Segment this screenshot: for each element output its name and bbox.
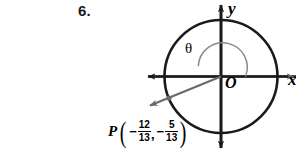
x-denominator: 13 (138, 133, 151, 143)
x-coordinate-fraction: 12 13 (138, 120, 151, 143)
theta-label: θ (185, 40, 192, 57)
origin-label: O (225, 74, 237, 92)
y-numerator: 5 (168, 120, 176, 130)
y-axis-label: y (228, 0, 236, 19)
angle-arc (198, 43, 247, 77)
y-denominator: 13 (165, 133, 178, 143)
x-coordinate-sign: − (129, 124, 137, 139)
coordinate-comma: , (151, 127, 155, 143)
point-p-marker (166, 95, 171, 100)
terminal-ray (150, 77, 221, 106)
x-numerator: 12 (138, 120, 151, 130)
y-coordinate-fraction: 5 13 (165, 120, 178, 143)
point-p-label: P ( − 12 13 , − 5 13 ) (108, 120, 188, 143)
point-p-name: P (108, 123, 117, 140)
x-axis-label: x (288, 70, 296, 90)
unit-circle-figure: 6. y x O θ P ( − 12 (0, 0, 296, 156)
y-coordinate-sign: − (157, 124, 165, 139)
close-paren: ) (180, 121, 187, 143)
open-paren: ( (120, 121, 127, 143)
